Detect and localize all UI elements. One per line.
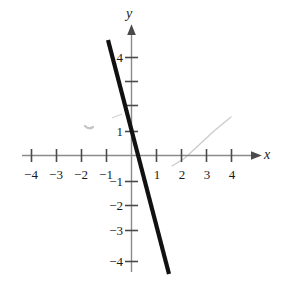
x-tick-label-4: 4 [229, 168, 236, 181]
x-tick-label-1: 1 [154, 168, 161, 181]
plotted-line [108, 40, 169, 274]
faint-smudge-secondary-icon [112, 114, 122, 118]
y-tick-label--1: −1 [109, 175, 123, 188]
coordinate-plane [0, 0, 290, 294]
x-tick-label--4: −4 [24, 168, 38, 181]
y-axis-label: y [126, 7, 132, 21]
x-tick-label-3: 3 [204, 168, 211, 181]
graph-figure: −4 −3 −2 −1 1 2 3 4 4 1 −1 −2 −3 −4 x y [0, 0, 290, 294]
x-tick-label--3: −3 [49, 168, 63, 181]
x-tick-label-2: 2 [179, 168, 186, 181]
x-tick-label--2: −2 [74, 168, 88, 181]
y-tick-label--2: −2 [109, 199, 123, 212]
y-tick-label-1: 1 [117, 125, 124, 138]
faint-smudge-icon [85, 126, 93, 128]
y-tick-label-4: 4 [117, 51, 124, 64]
y-tick-label--3: −3 [109, 224, 123, 237]
x-axis-label: x [264, 148, 270, 162]
y-tick-label--4: −4 [109, 255, 123, 268]
